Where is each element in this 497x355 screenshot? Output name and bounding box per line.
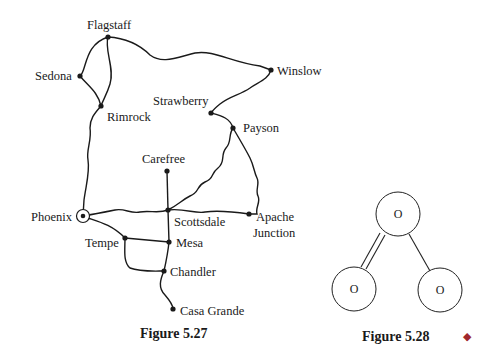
node-phoenix [81,214,86,219]
road-phoenix-tempe [88,218,125,238]
label-strawberry: Strawberry [153,94,209,108]
figure-528-caption: Figure 5.28 [362,329,429,344]
label-apache: Apache [256,210,295,224]
road-tempe-mesa [125,238,169,242]
atom-right-label: O [436,283,445,297]
node-casa-grande [170,306,175,311]
road-winslow-strawberry [211,70,271,113]
label-phoenix: Phoenix [31,210,73,224]
label-mesa: Mesa [176,236,204,250]
node-sedona [77,73,82,78]
node-tempe [122,235,127,240]
label-scottsdale: Scottsdale [174,215,226,229]
label-carefree: Carefree [142,152,185,166]
label-sedona: Sedona [35,69,72,83]
atom-top-label: O [394,207,403,221]
road-rimrock-phoenix [83,106,101,216]
road-strawberry-payson [211,113,233,128]
road-payson-apache [233,128,259,214]
page-canvas: Flagstaff Sedona Rimrock Winslow Strawbe… [0,0,497,355]
road-flagstaff-rimrock [101,37,111,106]
single-bond [409,234,430,271]
molecule-diagram: O O O Figure 5.28 ◆ [332,192,472,344]
node-carefree [164,168,169,173]
label-tempe: Tempe [85,236,119,250]
node-rimrock [98,103,103,108]
road-carefree-scottsdale [167,171,168,210]
node-payson [230,125,235,130]
node-apache-junction [246,211,251,216]
label-rimrock: Rimrock [107,110,151,124]
label-flagstaff: Flagstaff [87,18,132,32]
road-tempe-chandler [125,238,164,271]
label-payson: Payson [243,121,280,135]
label-casa-grande: Casa Grande [180,304,245,318]
end-of-example-diamond-icon: ◆ [463,330,472,342]
arizona-road-map: Flagstaff Sedona Rimrock Winslow Strawbe… [31,18,322,341]
road-scottsdale-apache [168,210,249,214]
label-winslow: Winslow [277,64,322,78]
road-mesa-chandler [164,242,169,271]
label-chandler: Chandler [170,265,217,279]
road-flagstaff-sedona [80,37,108,76]
road-flagstaff-winslow [108,37,271,70]
figure-527-caption: Figure 5.27 [140,326,207,341]
node-chandler [161,268,166,273]
road-scottsdale-mesa [168,210,169,242]
label-junction: Junction [253,226,296,240]
road-payson-scottsdale [168,128,233,210]
road-sedona-rimrock [80,76,101,106]
road-phoenix-scottsdale [83,210,168,216]
node-mesa [166,239,171,244]
node-strawberry [208,110,213,115]
atom-left-label: O [350,282,359,296]
node-scottsdale [165,207,170,212]
node-winslow [268,67,273,72]
node-flagstaff [105,34,110,39]
